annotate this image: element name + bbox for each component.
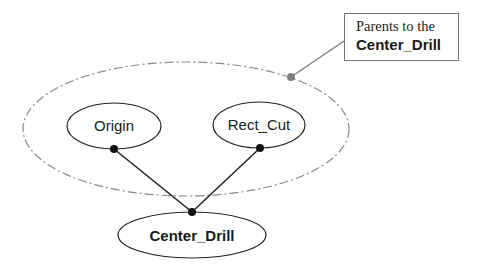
callout-text-line2: Center_Drill (356, 35, 458, 54)
edge-origin-to-center-drill (114, 149, 192, 212)
callout-anchor-dot (287, 73, 295, 81)
callout-leader-line (291, 41, 344, 77)
callout-text-line1: Parents to the (356, 18, 458, 35)
origin-connector-dot (110, 145, 118, 153)
node-center-drill-label: Center_Drill (149, 227, 234, 244)
rect-cut-connector-dot (256, 144, 264, 152)
center-drill-connector-dot (188, 208, 196, 216)
callout-box: Parents to the Center_Drill (344, 13, 459, 61)
node-rect-cut[interactable]: Rect_Cut (213, 102, 305, 148)
node-origin[interactable]: Origin (67, 103, 161, 149)
edge-rect-cut-to-center-drill (192, 148, 260, 212)
node-center-drill[interactable]: Center_Drill (118, 212, 266, 258)
node-rect-cut-label: Rect_Cut (228, 116, 291, 133)
node-origin-label: Origin (94, 117, 134, 134)
